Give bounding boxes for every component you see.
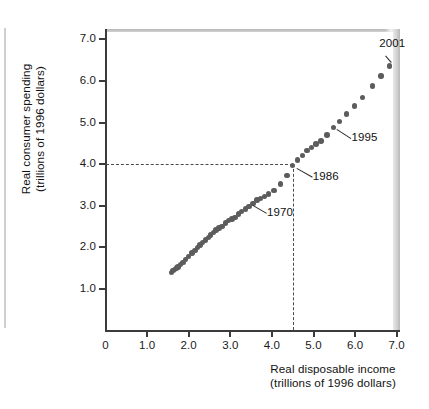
reference-line-horizontal: [106, 164, 293, 165]
data-point: [295, 157, 300, 162]
plot-area: [107, 32, 393, 332]
annotation-label-1995: 1995: [351, 131, 377, 143]
x-tick: [146, 331, 148, 337]
data-point: [284, 173, 289, 178]
reference-line-vertical: [293, 164, 294, 330]
y-axis-title-line1: Real consumer spending: [19, 34, 33, 224]
y-tick-label: 5.0: [80, 116, 96, 128]
x-tick-label: 5.0: [294, 339, 334, 351]
annotation-label-2001: 2001: [379, 37, 405, 49]
x-tick-label: 0: [86, 339, 126, 351]
x-tick-label: 4.0: [252, 339, 292, 351]
y-axis-title-line2: (trillions of 1996 dollars): [33, 34, 47, 224]
data-point: [324, 132, 329, 137]
x-axis-title: Real disposable income (trillions of 199…: [238, 362, 428, 390]
y-tick-label: 6.0: [80, 74, 96, 86]
scatter-chart-figure: 1.02.03.04.05.06.07.0 01.02.03.04.05.06.…: [0, 0, 429, 409]
data-point: [278, 181, 283, 186]
y-tick: [99, 122, 105, 124]
y-tick: [99, 246, 105, 248]
x-tick-label: 1.0: [127, 339, 167, 351]
annotation-label-1970: 1970: [267, 206, 293, 218]
data-point: [370, 83, 375, 88]
data-point: [266, 191, 271, 196]
x-tick-label: 2.0: [169, 339, 209, 351]
x-tick: [229, 331, 231, 337]
y-tick: [99, 80, 105, 82]
y-tick-label: 7.0: [80, 32, 96, 44]
x-tick: [313, 331, 315, 337]
x-tick: [396, 331, 398, 337]
data-point: [352, 103, 357, 108]
x-tick: [271, 331, 273, 337]
page-margin-rule: [4, 28, 6, 328]
y-tick-label: 2.0: [80, 240, 96, 252]
x-tick-label: 6.0: [335, 339, 375, 351]
y-tick: [99, 38, 105, 40]
y-axis-line: [105, 29, 107, 332]
annotation-label-1986: 1986: [313, 170, 339, 182]
y-tick-label: 3.0: [80, 199, 96, 211]
y-tick-label: 4.0: [80, 157, 96, 169]
data-point: [387, 63, 392, 68]
x-axis-title-line1: Real disposable income: [238, 362, 428, 376]
data-point: [318, 138, 323, 143]
x-tick-label: 3.0: [210, 339, 250, 351]
data-point: [378, 73, 383, 78]
x-tick: [354, 331, 356, 337]
y-tick: [99, 288, 105, 290]
y-tick: [99, 205, 105, 207]
y-axis-title: Real consumer spending (trillions of 199…: [19, 34, 47, 224]
x-axis-title-line2: (trillions of 1996 dollars): [238, 376, 428, 390]
y-tick-label: 1.0: [80, 282, 96, 294]
y-tick: [99, 163, 105, 165]
x-tick: [188, 331, 190, 337]
x-tick-label: 7.0: [377, 339, 417, 351]
